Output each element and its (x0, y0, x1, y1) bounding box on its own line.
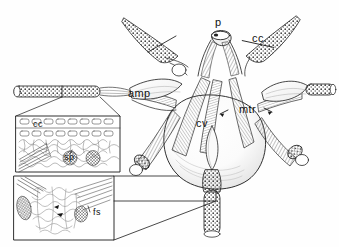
upper-inset-leaders (16, 97, 120, 116)
upper-inset-box (16, 116, 120, 172)
anatomical-figure: p cc amp mtr cv cc sp fs (0, 0, 339, 247)
label-amp: amp (128, 87, 151, 99)
label-cc-main: cc (252, 32, 264, 44)
figure-linework (0, 0, 339, 247)
pedicel-cone (198, 31, 242, 78)
lower-inset-box (14, 176, 216, 240)
label-sp: sp (64, 152, 74, 162)
left-sperm-tube (14, 86, 132, 97)
right-spine (242, 16, 300, 76)
label-mtr: mtr (239, 103, 256, 115)
label-p: p (215, 16, 222, 28)
label-cc-inset: cc (33, 119, 43, 129)
left-spine (122, 18, 188, 76)
bottom-sperm-tube (203, 170, 221, 237)
label-cv: cv (196, 117, 208, 129)
label-fs: fs (93, 207, 101, 217)
right-sperm-tube (306, 84, 336, 95)
